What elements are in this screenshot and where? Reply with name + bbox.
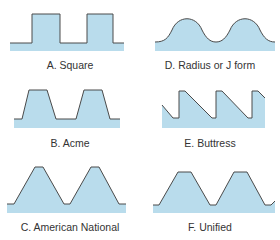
label-american-national: C. American National bbox=[0, 221, 140, 233]
buttress-thread-profile bbox=[162, 91, 265, 128]
unified-thread-profile bbox=[153, 172, 275, 213]
label-buttress: E. Buttress bbox=[140, 137, 280, 149]
american-national-thread-profile bbox=[7, 167, 126, 213]
thread-forms-diagram bbox=[0, 0, 280, 240]
radius-thread-profile bbox=[155, 19, 275, 51]
label-acme: B. Acme bbox=[0, 137, 140, 149]
label-radius: D. Radius or J form bbox=[140, 59, 280, 71]
label-square: A. Square bbox=[0, 59, 140, 71]
square-thread-profile bbox=[10, 14, 124, 51]
label-unified: F. Unified bbox=[140, 221, 280, 233]
acme-thread-profile bbox=[14, 90, 120, 128]
